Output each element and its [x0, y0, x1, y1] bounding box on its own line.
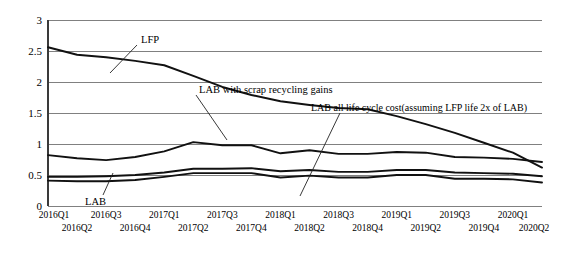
- x-axis-tick-label: 2018Q1: [265, 210, 296, 220]
- annotation-lab-with-scrap-recycling-gains: LAB with scrap recycling gains: [199, 84, 333, 95]
- leader-line-lab-all-life: [300, 113, 340, 196]
- x-axis-tick-label: 2020Q2: [519, 223, 550, 233]
- annotation-lfp: LFP: [141, 34, 159, 45]
- x-axis-tick-label: 2016Q4: [120, 223, 151, 233]
- x-axis-tick-label: 2016Q3: [91, 210, 122, 220]
- x-axis-tick-label: 2017Q3: [207, 210, 238, 220]
- x-axis-tick-label: 2018Q3: [323, 210, 354, 220]
- x-axis-tick-label: 2017Q2: [178, 223, 209, 233]
- y-axis-tick-label: 1: [37, 138, 43, 150]
- chart-container: 00.511.522.53 LFP LAB with scrap recycli…: [0, 0, 564, 257]
- x-axis-tick-label: 2017Q1: [149, 210, 180, 220]
- series-line-1: [48, 142, 542, 162]
- data-series-group: [48, 47, 542, 182]
- y-axis-tick-label: 1.5: [28, 107, 42, 119]
- y-axis-tick-label: 2: [37, 76, 43, 88]
- y-axis-tick-label: 3: [37, 14, 43, 26]
- y-axis-tick-label: 0.5: [28, 169, 42, 181]
- x-axis-tick-label: 2019Q2: [410, 223, 441, 233]
- x-axis-tick-label: 2019Q4: [469, 223, 500, 233]
- x-axis-tick-label: 2018Q2: [294, 223, 325, 233]
- x-axis-tick-labels: 2016Q12016Q22016Q32016Q42017Q12017Q22017…: [39, 210, 550, 233]
- x-axis-tick-label: 2020Q1: [498, 210, 529, 220]
- x-axis-tick-label: 2016Q1: [39, 210, 70, 220]
- x-axis-tick-label: 2019Q1: [381, 210, 412, 220]
- line-chart: 00.511.522.53 LFP LAB with scrap recycli…: [0, 0, 564, 257]
- x-axis-tick-label: 2019Q3: [440, 210, 471, 220]
- leader-line-lab-scrap: [196, 95, 227, 140]
- y-axis-tick-labels: 00.511.522.53: [28, 14, 42, 212]
- x-axis-tick-label: 2017Q4: [236, 223, 267, 233]
- series-line-2: [48, 168, 542, 177]
- x-axis-tick-label: 2018Q4: [352, 223, 383, 233]
- y-axis-tick-label: 2.5: [28, 45, 42, 57]
- x-axis-tick-label: 2016Q2: [62, 223, 93, 233]
- annotation-lab-all-life-cycle-cost: LAB all life cycle cost(assuming LFP lif…: [311, 102, 527, 114]
- annotation-lab: LAB: [85, 196, 106, 207]
